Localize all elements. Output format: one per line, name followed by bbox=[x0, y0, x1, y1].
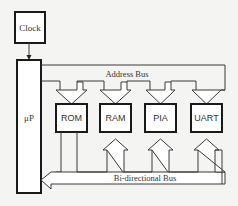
address-bus-label: Address Bus bbox=[105, 69, 148, 79]
data-arrow-uart bbox=[194, 139, 225, 172]
data-bus: Bi-directional Bus bbox=[41, 132, 225, 189]
cpu-box bbox=[17, 60, 41, 193]
ram-label: RAM bbox=[106, 113, 126, 123]
uart-label: UART bbox=[194, 113, 219, 123]
component-ram: RAM bbox=[100, 104, 131, 132]
cpu-label: μP bbox=[24, 113, 34, 123]
address-arrow-ram bbox=[100, 82, 131, 104]
data-bus-label: Bi-directional Bus bbox=[114, 173, 177, 183]
clock-label: Clock bbox=[19, 23, 41, 33]
component-uart: UART bbox=[191, 104, 222, 132]
address-arrow-uart bbox=[192, 90, 225, 104]
address-arrow-rom bbox=[56, 82, 87, 104]
clock-block: Clock bbox=[15, 12, 45, 43]
cpu-block: μP bbox=[17, 60, 41, 193]
rom-label: ROM bbox=[61, 113, 82, 123]
pia-label: PIA bbox=[153, 113, 168, 123]
address-bus: Address Bus bbox=[41, 65, 225, 104]
component-rom: ROM bbox=[56, 104, 87, 132]
component-pia: PIA bbox=[145, 104, 176, 132]
block-diagram: Clock μP Address Bus ROM bbox=[0, 0, 238, 206]
clock-to-cpu-arrow bbox=[27, 43, 32, 60]
